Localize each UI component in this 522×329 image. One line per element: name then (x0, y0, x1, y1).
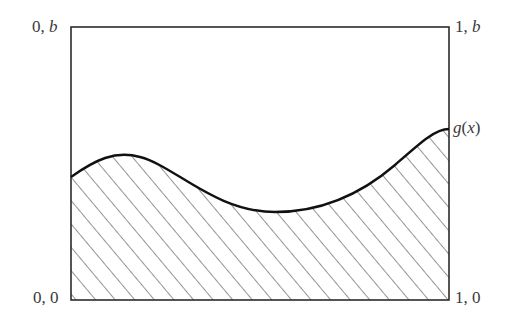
label-fn-name: g (453, 118, 462, 137)
integral-area-diagram: 0, b 1, b 0, 0 1, 0 g(x) (0, 0, 522, 329)
label-bottom-left: 0, 0 (33, 289, 59, 306)
label-separator: , (41, 17, 50, 36)
label-bottom-right-y: 0 (472, 288, 481, 307)
label-bottom-left-x: 0 (33, 288, 42, 307)
label-separator: , (464, 17, 473, 36)
label-top-left-x: 0 (32, 17, 41, 36)
label-bottom-left-y: 0 (50, 288, 59, 307)
hatched-area-region (71, 100, 449, 300)
diagram-canvas (0, 0, 522, 329)
label-top-left: 0, b (32, 18, 58, 35)
label-top-left-y: b (49, 17, 58, 36)
label-separator: , (42, 288, 51, 307)
label-paren-close: ) (475, 118, 481, 137)
label-fn-arg: x (467, 118, 475, 137)
label-separator: , (464, 288, 473, 307)
label-top-right-y: b (472, 17, 481, 36)
label-bottom-right-x: 1 (455, 288, 464, 307)
label-curve-g-of-x: g(x) (453, 119, 480, 136)
label-top-right-x: 1 (455, 17, 464, 36)
label-bottom-right: 1, 0 (455, 289, 481, 306)
label-top-right: 1, b (455, 18, 481, 35)
